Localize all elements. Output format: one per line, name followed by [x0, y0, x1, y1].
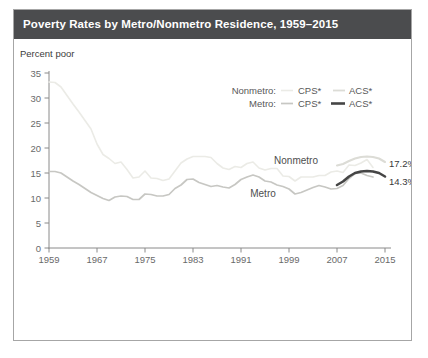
y-tick-label: 35: [30, 68, 41, 79]
x-tick-label: 2007: [326, 254, 347, 265]
y-tick-label: 10: [30, 193, 41, 204]
x-tick-label: 2015: [374, 254, 395, 265]
legend-nonmetro-cps-label: CPS*: [298, 85, 322, 96]
series-line-nonmetro-cps: [49, 82, 373, 181]
chart-panel: Poverty Rates by Metro/Nonmetro Residenc…: [13, 9, 412, 341]
x-tick-label: 1999: [278, 254, 299, 265]
chart-title-bar: Poverty Rates by Metro/Nonmetro Residenc…: [14, 10, 411, 39]
y-tick-label: 30: [30, 93, 41, 104]
x-tick-label: 1959: [38, 254, 59, 265]
legend-metro-label: Metro:: [249, 98, 276, 109]
y-tick-label: 20: [30, 143, 41, 154]
y-tick-label: 15: [30, 168, 41, 179]
x-tick-label: 1991: [230, 254, 251, 265]
metro-series-annotation: Metro: [250, 188, 276, 199]
page: Poverty Rates by Metro/Nonmetro Residenc…: [0, 0, 428, 358]
legend-nonmetro-acs-label: ACS*: [349, 85, 373, 96]
y-tick-label: 25: [30, 118, 41, 129]
chart-svg: Percent poor 05101520253035 195919671975…: [14, 39, 411, 284]
nonmetro-end-value-label: 17.2%: [389, 158, 411, 169]
x-tick-label: 1967: [86, 254, 107, 265]
metro-end-value-label: 14.3%: [389, 176, 411, 187]
legend-nonmetro-label: Nonmetro:: [232, 85, 276, 96]
nonmetro-series-annotation: Nonmetro: [274, 155, 318, 166]
x-axis-ticks: 19591967197519831991199920072015: [38, 248, 395, 265]
chart-series: [49, 82, 385, 201]
y-tick-label: 5: [36, 218, 41, 229]
legend-metro-acs-label: ACS*: [349, 98, 373, 109]
x-tick-label: 1975: [134, 254, 155, 265]
series-line-nonmetro-acs: [337, 157, 385, 166]
y-axis-title: Percent poor: [20, 48, 74, 59]
legend-metro-cps-label: CPS*: [298, 98, 322, 109]
y-axis-ticks: 05101520253035: [30, 68, 49, 254]
x-tick-label: 1983: [182, 254, 203, 265]
y-tick-label: 0: [36, 243, 41, 254]
chart-title: Poverty Rates by Metro/Nonmetro Residenc…: [23, 18, 338, 30]
chart-legend: Nonmetro: CPS* ACS* Metro: CPS* ACS*: [232, 85, 373, 109]
